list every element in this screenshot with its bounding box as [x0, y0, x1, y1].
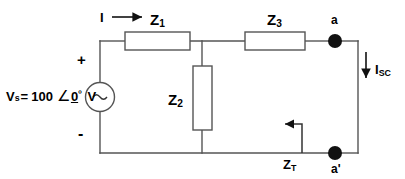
label-node-a-prime: a' — [331, 163, 341, 175]
label-vs-equals: = — [21, 90, 29, 103]
label-z2-subscript: 2 — [177, 98, 183, 109]
node-dot-a — [328, 34, 342, 48]
label-z2-base: Z — [168, 91, 177, 108]
label-z1-base: Z — [150, 11, 159, 28]
impedance-box-z3 — [245, 32, 305, 50]
label-polarity-plus: + — [77, 52, 86, 67]
label-impedance-z2: Z2 — [168, 92, 183, 109]
label-zt-base: Z — [283, 157, 291, 172]
label-z3-subscript: 3 — [276, 18, 282, 29]
label-vs-degree: º — [78, 89, 81, 99]
label-zt-subscript: T — [291, 163, 296, 173]
label-isc-subscript: SC — [379, 68, 391, 78]
label-vs-unit: V — [88, 90, 97, 103]
label-source-voltage: Vs=100∠0ºV — [6, 88, 96, 103]
label-impedance-zt: ZT — [283, 158, 296, 173]
label-vs-base: V — [6, 90, 15, 103]
arrow-left-icon-impedance-zt — [285, 124, 302, 153]
label-impedance-z1: Z1 — [150, 12, 165, 29]
angle-icon: ∠ — [57, 88, 70, 103]
label-polarity-minus: - — [78, 126, 83, 142]
label-vs-angle-group: ∠0º — [57, 88, 82, 103]
label-current-isc: ISC — [375, 63, 391, 78]
impedance-box-z2 — [193, 66, 212, 130]
label-vs-magnitude: 100 — [31, 90, 53, 103]
label-z1-subscript: 1 — [159, 18, 165, 29]
label-node-a: a — [331, 14, 338, 26]
node-dot-a-prime — [328, 146, 342, 160]
circuit-diagram: I Z1 Z3 Z2 ZT a a' ISC + - Vs=100∠0ºV — [0, 0, 405, 179]
label-impedance-z3: Z3 — [267, 12, 282, 29]
label-current-i: I — [100, 11, 104, 24]
label-z3-base: Z — [267, 11, 276, 28]
label-vs-subscript: s — [15, 94, 20, 103]
impedance-box-z1 — [125, 32, 190, 50]
